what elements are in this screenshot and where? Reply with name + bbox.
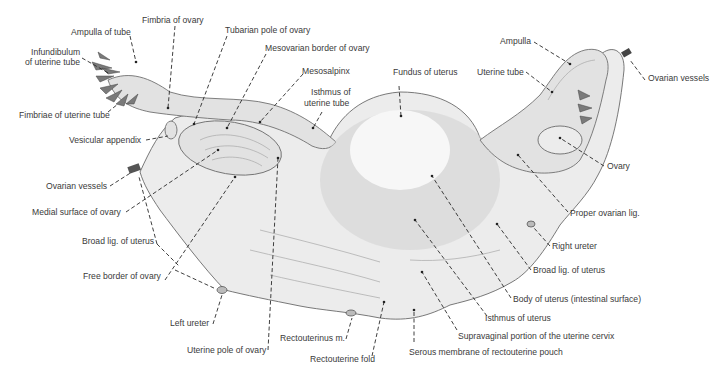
label-fimbriae-of-uterine-tube: Fimbriae of uterine tube (19, 110, 110, 120)
label-serous-membrane: Serous membrane of rectouterine pouch (409, 347, 563, 357)
label-supravaginal-portion: Supravaginal portion of the uterine cerv… (458, 331, 615, 341)
label-broad-lig-left: Broad lig. of uterus (82, 236, 154, 246)
label-mesosalpinx: Mesosalpinx (302, 66, 350, 76)
label-ovarian-vessels-left: Ovarian vessels (46, 181, 107, 191)
label-isthmus-of-uterine-tube-line1: Isthmus of (311, 87, 351, 97)
label-free-border-of-ovary: Free border of ovary (83, 271, 162, 281)
label-tubarian-pole-of-ovary: Tubarian pole of ovary (225, 25, 311, 35)
label-right-ureter: Right ureter (552, 241, 597, 251)
label-rectouterine-fold: Rectouterine fold (310, 354, 375, 364)
label-uterine-tube: Uterine tube (477, 67, 524, 77)
right-ovary (538, 126, 582, 154)
left-ureter-cut (217, 287, 227, 294)
label-ampulla: Ampulla (500, 36, 531, 46)
label-vesicular-appendix: Vesicular appendix (69, 135, 142, 145)
label-body-of-uterus: Body of uterus (intestinal surface) (513, 294, 641, 304)
label-fimbria-of-ovary: Fimbria of ovary (142, 15, 204, 25)
label-mesovarian-border-of-ovary: Mesovarian border of ovary (265, 43, 370, 53)
anatomy-diagram: Ampulla of tube Infundibulum of uterine … (0, 0, 711, 380)
label-ovary: Ovary (607, 161, 631, 171)
label-isthmus-of-uterus: Isthmus of uterus (485, 313, 551, 323)
right-ureter-cut (527, 221, 535, 227)
label-ampulla-of-tube: Ampulla of tube (71, 27, 131, 37)
label-rectouterinus-m: Rectouterinus m. (280, 333, 345, 343)
label-medial-surface-of-ovary: Medial surface of ovary (32, 207, 122, 217)
label-uterine-pole-of-ovary: Uterine pole of ovary (187, 345, 267, 355)
right-ovarian-vessels-stump (621, 48, 632, 58)
label-isthmus-of-uterine-tube-line2: uterine tube (304, 98, 350, 108)
anatomy-illustration (92, 48, 632, 319)
label-left-ureter: Left ureter (170, 318, 209, 328)
rectouterinus-cut (346, 310, 356, 316)
label-infundibulum-line1: Infundibulum (31, 47, 80, 57)
label-ovarian-vessels-right: Ovarian vessels (648, 73, 709, 83)
label-fundus-of-uterus: Fundus of uterus (393, 67, 458, 77)
left-ovarian-vessels-stump (127, 163, 141, 174)
fundus-highlight (350, 110, 450, 190)
label-infundibulum-line2: of uterine tube (25, 57, 80, 67)
label-proper-ovarian-lig: Proper ovarian lig. (570, 208, 640, 218)
label-broad-lig-right: Broad lig. of uterus (533, 265, 605, 275)
